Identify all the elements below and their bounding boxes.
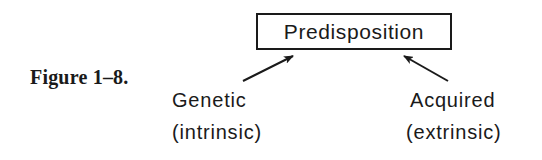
acquired-node: Acquired (extrinsic) [406,84,501,148]
genetic-node: Genetic (intrinsic) [172,84,262,148]
genetic-node-label: Genetic [172,84,262,116]
acquired-node-sublabel: (extrinsic) [406,116,501,148]
genetic-node-sublabel: (intrinsic) [172,116,262,148]
arrow-acquired-to-predisposition-icon [404,56,448,81]
diagram-canvas: Figure 1–8. Predisposition Genetic (intr… [0,0,542,160]
arrow-genetic-to-predisposition-icon [243,56,293,81]
acquired-node-label: Acquired [406,84,501,116]
